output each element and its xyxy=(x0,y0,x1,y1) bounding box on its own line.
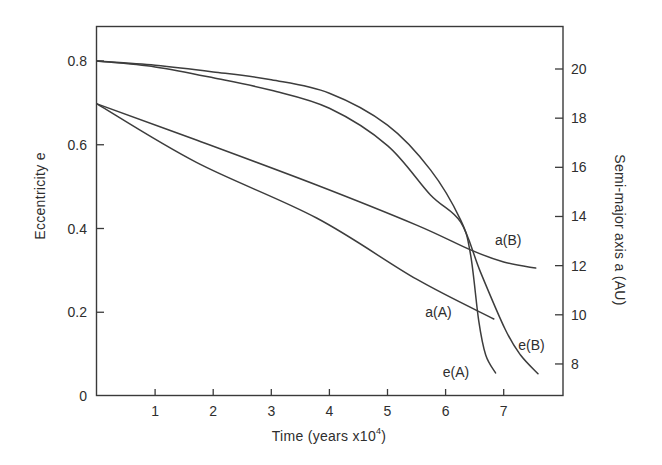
right-tick-label: 12 xyxy=(571,258,587,274)
x-tick-label: 6 xyxy=(442,403,450,419)
x-tick-label: 2 xyxy=(209,403,217,419)
curve-label-aa: a(A) xyxy=(425,304,451,320)
curve-aa xyxy=(97,104,494,319)
curves xyxy=(97,61,538,374)
right-tick-label: 8 xyxy=(571,356,579,372)
right-tick-label: 14 xyxy=(571,208,587,224)
left-tick-label: 0.2 xyxy=(68,304,88,320)
x-tick-label: 3 xyxy=(267,403,275,419)
x-tick-label: 1 xyxy=(151,403,159,419)
curve-ea xyxy=(97,61,496,373)
curve-eb xyxy=(97,61,538,374)
left-axis-title: Eccentricity e xyxy=(32,152,48,239)
curve-labels: e(A)e(B)a(A)a(B) xyxy=(425,232,544,380)
plot-frame xyxy=(97,27,564,396)
x-tick-label: 5 xyxy=(384,403,392,419)
left-tick-label: 0 xyxy=(79,388,87,404)
right-tick-label: 16 xyxy=(571,159,587,175)
chart: 1234567 00.20.40.60.8 8101214161820 e(A)… xyxy=(0,0,662,465)
right-axis-ticks: 8101214161820 xyxy=(555,61,587,372)
curve-label-ea: e(A) xyxy=(443,364,469,380)
right-tick-label: 10 xyxy=(571,307,587,323)
right-axis-title: Semi-major axis a (AU) xyxy=(612,154,628,305)
right-tick-label: 20 xyxy=(571,61,587,77)
curve-label-ab: a(B) xyxy=(495,232,521,248)
left-tick-label: 0.8 xyxy=(68,53,88,69)
x-axis-title: Time (years x104) xyxy=(272,426,387,444)
x-axis-ticks: 1234567 xyxy=(151,389,508,419)
x-axis-title-close: ) xyxy=(381,428,386,444)
curve-label-eb: e(B) xyxy=(518,337,544,353)
right-tick-label: 18 xyxy=(571,110,587,126)
x-axis-title-main: Time (years x10 xyxy=(272,428,376,444)
x-tick-label: 7 xyxy=(500,403,508,419)
left-tick-label: 0.6 xyxy=(68,137,88,153)
x-tick-label: 4 xyxy=(326,403,334,419)
left-tick-label: 0.4 xyxy=(68,221,88,237)
